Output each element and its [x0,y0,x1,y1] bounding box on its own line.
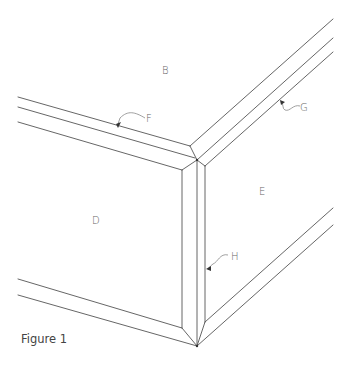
label-e: E [259,186,265,197]
figure-caption: Figure 1 [21,332,67,346]
arrowhead-h-icon [206,266,211,271]
top-vertex-dot [196,159,198,161]
leader-g [280,100,300,110]
bottom-vertex-dot [196,345,198,347]
label-b: B [162,65,169,76]
leader-h [206,255,228,271]
baseboard-right-lines [197,208,333,346]
molding-g-lines [190,19,333,166]
label-d: D [92,215,100,226]
molding-f-lines [18,97,195,170]
corner-diagram: B D E F G H Figure 1 [0,0,353,365]
molding-h-lines [182,160,205,346]
label-h: H [231,251,239,262]
label-f: F [146,113,152,124]
label-g: G [300,102,308,113]
